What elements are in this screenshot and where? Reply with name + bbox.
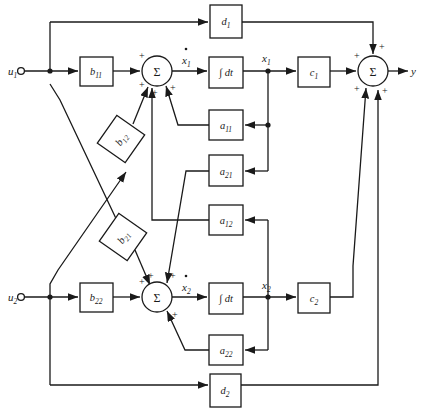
block-integrator-1[interactable]: ∫ dt: [209, 57, 243, 88]
junction-dot-u2: [47, 294, 52, 299]
label-y: y: [410, 65, 416, 77]
block-c2[interactable]: c2: [298, 283, 330, 313]
summer-sum2-symbol: Σ: [154, 291, 161, 305]
summer-sum1-sign-1: +: [139, 79, 145, 90]
summer-sum1[interactable]: Σ + + + +: [139, 50, 176, 98]
summer-sum1-sign-0: +: [139, 50, 145, 61]
block-d2[interactable]: d2: [210, 374, 241, 407]
terminal-u1[interactable]: [18, 68, 25, 75]
summer-output-sign-1: +: [354, 50, 360, 61]
block-d1-sub: 1: [227, 21, 231, 30]
summer-sum1-symbol: Σ: [154, 65, 161, 79]
label-x2-dot: x2: [181, 281, 191, 296]
block-d2-sub: 2: [226, 390, 230, 399]
block-c2-sub: 2: [314, 298, 318, 307]
block-integrator-2-label: ∫ dt: [218, 293, 234, 305]
label-x1-dot: x1: [181, 54, 191, 69]
label-u2: u2: [8, 291, 18, 306]
wire-c2-to-sumy: [330, 88, 366, 297]
label-x1: x1: [261, 52, 271, 67]
summer-sum2-sign-0: +: [139, 276, 145, 287]
summer-sum2-sign-3: +: [172, 309, 178, 320]
block-b22-sub: 22: [95, 297, 103, 306]
summer-output-sign-0: +: [379, 41, 385, 52]
diagram-svg: d1 b11 ∫ dt c1 a11: [0, 0, 429, 420]
block-integrator-2[interactable]: ∫ dt: [209, 283, 243, 314]
block-integrator-1-label: ∫ dt: [218, 67, 234, 79]
dot-accent-x1: [185, 48, 188, 51]
junction-dot-x2: [265, 294, 270, 299]
wire-b12-to-sum1: [133, 87, 148, 124]
wire-a21-to-sum2: [167, 171, 209, 283]
summer-sum1-sign-3: +: [170, 82, 176, 93]
block-b11-sub: 11: [95, 71, 102, 80]
summer-output-sign-3: +: [382, 85, 388, 96]
block-diagram-canvas: d1 b11 ∫ dt c1 a11: [0, 0, 429, 420]
blocks: d1 b11 ∫ dt c1 a11: [80, 5, 330, 407]
summer-sum1-sign-2: +: [152, 87, 158, 98]
input-terminals: [18, 68, 25, 301]
terminal-u2[interactable]: [18, 294, 25, 301]
block-d1[interactable]: d1: [210, 5, 242, 38]
summer-sum2[interactable]: Σ + + + +: [139, 270, 178, 320]
block-a21[interactable]: a21: [209, 155, 243, 186]
block-a21-sub: 21: [225, 171, 233, 180]
junction-dot-u1: [47, 68, 52, 73]
junction-dot-x1-a11: [265, 122, 270, 127]
block-c1-sub: 1: [314, 72, 318, 81]
block-a12[interactable]: a12: [209, 205, 243, 235]
summer-output-sign-2: +: [354, 83, 360, 94]
summer-sum2-sign-1: +: [148, 270, 154, 281]
block-b12[interactable]: b12: [97, 115, 144, 162]
block-a11-sub: 11: [225, 125, 232, 134]
block-a22-sub: 22: [225, 350, 233, 359]
block-b22[interactable]: b22: [80, 283, 113, 312]
label-x2: x2: [261, 279, 271, 294]
junction-dot-x1: [265, 68, 270, 73]
block-b21[interactable]: b21: [99, 213, 146, 260]
summer-output[interactable]: Σ + + + +: [354, 41, 388, 96]
summer-output-symbol: Σ: [370, 65, 377, 79]
block-a12-sub: 12: [225, 220, 233, 229]
label-u1: u1: [8, 65, 17, 80]
block-b11[interactable]: b11: [80, 57, 113, 86]
dot-accent-x2: [185, 275, 188, 278]
block-a11[interactable]: a11: [209, 110, 243, 140]
block-a22[interactable]: a22: [209, 335, 243, 365]
wire-d2-to-sumy: [241, 90, 378, 385]
summer-sum2-sign-2: +: [170, 270, 176, 281]
block-c1[interactable]: c1: [298, 57, 330, 87]
